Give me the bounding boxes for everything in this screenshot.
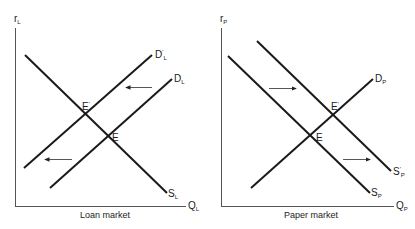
paper-x-axis-label: QP [396,201,408,212]
loan-demand-curve [50,79,172,188]
loan-supply-curve [25,55,167,193]
loan-equilibrium-new-label: E' [82,101,90,112]
paper-equilibrium-label: E [316,133,323,143]
paper-supply-label: SP [371,188,382,199]
loan-equilibrium-label: E [112,133,119,143]
loan-market-caption: Loan market [80,210,130,220]
paper-market-panel [221,28,394,207]
loan-demand-shifted-label: D'L [155,49,167,61]
paper-equilibrium-new-label: E' [331,101,339,112]
paper-y-axis-label: rP [220,14,227,25]
diagram-svg [0,0,415,229]
paper-supply-curve [228,56,370,193]
paper-supply-shifted-label: S'P [393,166,405,178]
loan-demand-label: DL [174,74,185,85]
paper-market-caption: Paper market [284,210,338,220]
loan-x-axis-label: QL [188,201,199,212]
diagram-stage: rL QL D'L DL SL E' E Loan market rP QP D… [0,0,415,229]
paper-supply-shifted-curve [257,41,391,171]
loan-y-axis-label: rL [14,14,21,25]
paper-demand-label: DP [375,74,386,85]
loan-supply-label: SL [168,189,178,200]
